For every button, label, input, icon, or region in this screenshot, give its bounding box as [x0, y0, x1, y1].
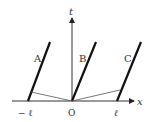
line-c-label: C — [124, 53, 132, 64]
x-axis-label: x — [137, 96, 143, 107]
line-b-label: B — [79, 53, 86, 64]
line-a-label: A — [33, 53, 42, 64]
plus-l-label: ℓ — [114, 108, 118, 118]
origin-label: O — [68, 108, 75, 118]
worldline-c — [117, 42, 141, 101]
worldline-b — [72, 42, 96, 101]
t-axis-label: t — [69, 6, 74, 17]
signal-line-right — [72, 90, 120, 101]
spacetime-diagram: t x O − ℓ ℓ A B C — [0, 0, 154, 122]
signal-line-left — [31, 92, 72, 101]
minus-l-label: − ℓ — [18, 108, 33, 118]
